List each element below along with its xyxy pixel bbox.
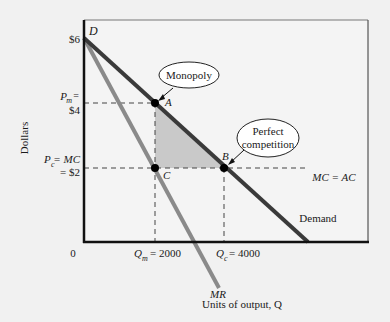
y-tick-pc: P c = MC = $2 — [43, 153, 81, 178]
x-tick-qm: Q m = 2000 — [134, 247, 181, 263]
point-d-label: D — [88, 24, 98, 38]
svg-text:m: m — [142, 254, 148, 263]
monopoly-vs-competition-chart: Monopoly Perfect competition D A B C MC … — [0, 0, 390, 322]
perfect-label: Perfect — [252, 125, 283, 137]
demand-label: Demand — [299, 212, 337, 224]
point-b-label: B — [222, 150, 229, 162]
svg-text:$4: $4 — [69, 104, 81, 116]
svg-text:= $2: = $2 — [60, 166, 80, 178]
point-c-marker — [151, 164, 159, 172]
point-b-marker — [220, 164, 228, 172]
svg-text:= 4000: = 4000 — [229, 247, 260, 259]
y-tick-6: $6 — [69, 33, 81, 45]
svg-text:Q: Q — [216, 247, 224, 259]
svg-text:=: = — [73, 90, 79, 101]
svg-text:= 2000: = 2000 — [150, 247, 181, 259]
mc-ac-label: MC = AC — [311, 171, 356, 183]
x-tick-0: 0 — [70, 247, 76, 259]
svg-text:c: c — [224, 254, 228, 263]
point-c-label: C — [163, 169, 171, 181]
x-tick-qc: Q c = 4000 — [216, 247, 260, 263]
svg-text:Q: Q — [134, 247, 142, 259]
x-axis-label: Units of output, Q — [202, 298, 282, 310]
monopoly-label: Monopoly — [166, 69, 212, 81]
svg-text:= MC: = MC — [53, 153, 80, 165]
plot-area — [84, 20, 368, 242]
competition-label: competition — [242, 138, 295, 150]
svg-text:P: P — [43, 153, 51, 165]
y-tick-pm: P m = $4 — [59, 90, 80, 116]
point-a-marker — [151, 99, 159, 107]
y-axis-label: Dollars — [18, 122, 30, 154]
point-a-label: A — [164, 96, 172, 108]
